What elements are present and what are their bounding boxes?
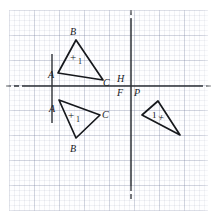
vertex-label-c-lower: C	[102, 110, 109, 120]
axis-label-p: P	[134, 88, 140, 98]
geometry-diagram-canvas: A B C + 1 A C B + 1 1 + H F P	[0, 0, 216, 221]
vertex-label-b-upper: B	[70, 27, 76, 37]
axis-label-h: H	[117, 74, 124, 84]
orientation-mark-plus-upper: +	[70, 52, 76, 63]
vertex-label-b-lower: B	[70, 144, 76, 154]
orientation-mark-plus-lower: +	[68, 110, 74, 121]
orientation-mark-one-right: 1	[152, 111, 157, 120]
orientation-mark-one-lower: 1	[76, 116, 80, 124]
vertex-label-c-upper: C	[103, 78, 110, 88]
vertex-label-a-upper: A	[48, 70, 54, 80]
axis-label-f: F	[117, 88, 123, 98]
orientation-mark-one-upper: 1	[78, 58, 82, 66]
vertex-label-a-lower: A	[49, 104, 55, 114]
